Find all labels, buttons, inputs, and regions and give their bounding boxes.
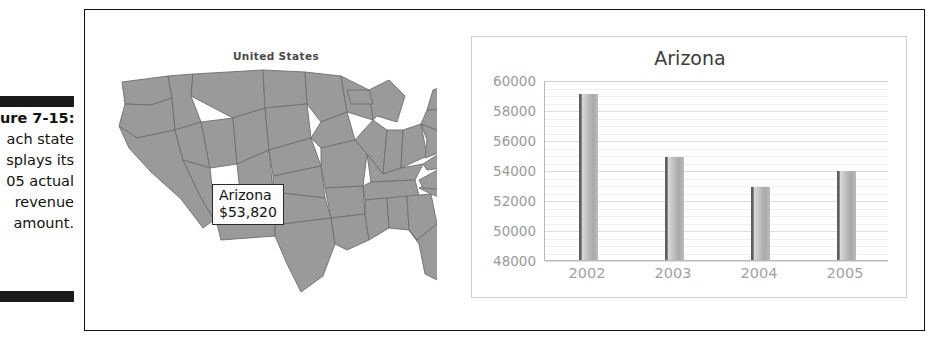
- figure-caption-text: ure 7-15: ach state splays its 05 actual…: [0, 108, 74, 234]
- state-arkansas[interactable]: [325, 186, 365, 218]
- state-indiana[interactable]: [383, 130, 403, 174]
- united-states-map[interactable]: [115, 68, 437, 296]
- state-michigan[interactable]: [369, 80, 405, 122]
- state-new-york[interactable]: [427, 80, 437, 110]
- state-montana[interactable]: [191, 70, 265, 118]
- bar-2003[interactable]: [665, 157, 684, 260]
- y-tick-label: 52000: [493, 193, 536, 209]
- y-tick-label: 54000: [493, 163, 536, 179]
- x-tick-label: 2004: [741, 265, 778, 281]
- arizona-value-callout[interactable]: Arizona $53,820: [212, 184, 284, 225]
- x-tick-label: 2003: [655, 265, 692, 281]
- map-title: United States: [101, 50, 451, 62]
- caption-rule-bottom: [0, 291, 74, 302]
- chart-bars: [545, 81, 888, 260]
- state-michigan-up[interactable]: [347, 90, 373, 104]
- figure-frame: United States: [84, 9, 925, 331]
- caption-line-3: splays its: [0, 150, 74, 171]
- y-tick-label: 60000: [493, 73, 536, 89]
- x-axis-tick-labels: 2002200320042005: [544, 265, 888, 289]
- y-axis-tick-labels: 60000580005600054000520005000048000: [488, 81, 540, 277]
- caption-line-4: 05 actual: [0, 171, 74, 192]
- y-tick-label: 48000: [493, 253, 536, 269]
- caption-line-6: amount.: [0, 213, 74, 234]
- bar-2005[interactable]: [837, 171, 856, 260]
- state-alabama[interactable]: [387, 196, 409, 230]
- x-tick-label: 2002: [569, 265, 606, 281]
- y-tick-label: 56000: [493, 133, 536, 149]
- chart-plot-area: 60000580005600054000520005000048000 2002…: [488, 81, 892, 277]
- arizona-bar-chart-panel: Arizona 60000580005600054000520005000048…: [471, 36, 907, 298]
- bar-2004[interactable]: [751, 187, 770, 260]
- caption-rule-top: [0, 96, 74, 107]
- y-tick-label: 50000: [493, 223, 536, 239]
- caption-line-1: ure 7-15:: [0, 108, 74, 129]
- callout-state-value: $53,820: [219, 204, 277, 221]
- bar-2002[interactable]: [579, 94, 598, 261]
- y-tick-label: 58000: [493, 103, 536, 119]
- caption-line-5: revenue: [0, 192, 74, 213]
- gridline-major: [545, 261, 888, 262]
- state-mississippi[interactable]: [365, 198, 389, 240]
- x-tick-label: 2005: [827, 265, 864, 281]
- chart-title: Arizona: [472, 47, 908, 69]
- state-louisiana[interactable]: [331, 214, 369, 250]
- chart-canvas: [544, 81, 888, 261]
- state-texas[interactable]: [275, 216, 335, 292]
- state-north-dakota[interactable]: [263, 70, 307, 108]
- state-missouri[interactable]: [321, 140, 367, 188]
- map-panel: United States: [101, 16, 451, 316]
- callout-state-name: Arizona: [219, 187, 277, 204]
- caption-line-2: ach state: [0, 129, 74, 150]
- figure-caption-column: ure 7-15: ach state splays its 05 actual…: [0, 0, 74, 341]
